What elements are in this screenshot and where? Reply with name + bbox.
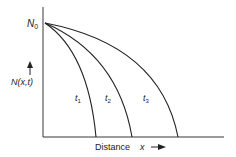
curve-label-t3: t3: [143, 93, 150, 104]
curve-label-t1: t1: [75, 93, 82, 104]
curve-label-t2: t2: [105, 93, 112, 104]
curve-t2: [45, 23, 132, 137]
curve-t1: [45, 23, 96, 137]
y-axis-label: N(x,t): [11, 77, 33, 87]
x-axis-variable: x: [139, 142, 145, 152]
right-arrow-icon: [151, 144, 166, 150]
x-axis-label: Distance: [95, 142, 130, 152]
diffusion-diagram: N0 N(x,t) t1 t2 t3 Distance x: [0, 0, 236, 157]
origin-label: N0: [27, 18, 38, 30]
up-arrow-icon: [27, 61, 33, 75]
